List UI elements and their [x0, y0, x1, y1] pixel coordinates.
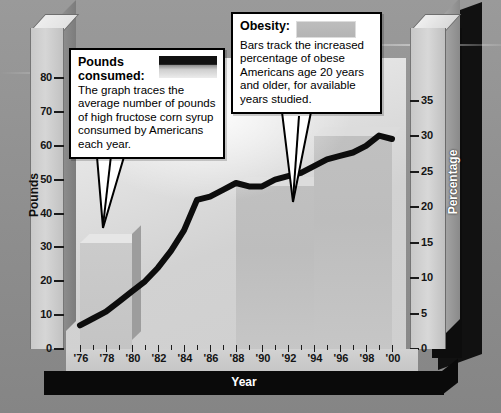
left-tick-label: 60: [28, 139, 52, 151]
callout-title: Obesity:: [240, 19, 290, 33]
pounds-consumed-callout: Pounds consumed: The graph traces the av…: [69, 48, 225, 159]
x-tick-mark: [353, 345, 354, 350]
x-axis-title-bar: Year: [44, 371, 444, 395]
x-tick-mark: [327, 345, 328, 350]
chart-canvas: 01020304050607080 Pounds 05101520253035 …: [0, 0, 501, 413]
x-tick-mark: [275, 345, 276, 350]
right-tick-label: 10: [421, 271, 443, 283]
obesity-callout-tail: [255, 110, 345, 210]
left-tick-label: 20: [28, 274, 52, 286]
right-tick-label: 30: [421, 129, 443, 141]
left-tick-mark: [54, 111, 64, 113]
bar-legend-swatch: [296, 21, 356, 38]
x-tick-mark: [288, 345, 289, 352]
left-tick-label: 80: [28, 71, 52, 83]
left-tick-mark: [54, 280, 64, 282]
obesity-callout: Obesity: Bars track the increased percen…: [231, 12, 382, 114]
x-tick-mark: [119, 345, 120, 350]
x-tick-label: '94: [303, 352, 327, 364]
x-tick-label: '86: [199, 352, 223, 364]
left-tick-mark: [54, 213, 64, 215]
callout-header: Pounds consumed:: [71, 50, 223, 83]
x-tick-mark: [197, 345, 198, 350]
x-tick-mark: [80, 345, 81, 352]
x-tick-mark: [158, 345, 159, 352]
x-tick-mark: [171, 345, 172, 350]
right-tick-mark: [410, 206, 419, 208]
x-tick-mark: [249, 345, 250, 350]
x-tick-mark: [106, 345, 107, 352]
right-tick-mark: [410, 242, 419, 244]
x-tick-mark: [132, 345, 133, 352]
x-axis-title: Year: [44, 375, 444, 389]
right-tick-mark: [410, 313, 419, 315]
x-tick-mark: [236, 345, 237, 352]
x-tick-mark: [184, 345, 185, 352]
x-tick-mark: [145, 345, 146, 350]
right-tick-label: 20: [421, 200, 443, 212]
left-tick-label: 30: [28, 240, 52, 252]
right-tick-mark: [410, 171, 419, 173]
x-tick-label: '84: [173, 352, 197, 364]
x-tick-mark: [301, 345, 302, 350]
left-tick-mark: [54, 246, 64, 248]
callout-body: Bars track the increased percentage of o…: [233, 38, 380, 112]
x-tick-mark: [93, 345, 94, 350]
left-tick-label: 10: [28, 308, 52, 320]
x-tick-mark: [379, 345, 380, 350]
x-tick-mark: [262, 345, 263, 352]
x-tick-label: '82: [147, 352, 171, 364]
x-tick-label: '92: [277, 352, 301, 364]
x-tick-label: '98: [355, 352, 379, 364]
left-tick-mark: [54, 145, 64, 147]
right-tick-label: 0: [421, 342, 443, 354]
x-tick-label: '88: [225, 352, 249, 364]
right-tick-label: 35: [421, 94, 443, 106]
left-tick-mark: [54, 179, 64, 181]
left-tick-label: 0: [28, 342, 52, 354]
x-tick-mark: [314, 345, 315, 352]
callout-header: Obesity:: [233, 14, 380, 38]
callout-body: The graph traces the average number of p…: [71, 83, 223, 157]
left-tick-mark: [54, 348, 64, 350]
right-tick-label: 25: [421, 165, 443, 177]
right-tick-mark: [410, 135, 419, 137]
x-tick-label: '80: [121, 352, 145, 364]
x-tick-mark: [210, 345, 211, 352]
x-tick-label: '00: [381, 352, 405, 364]
left-axis-title: Pounds: [27, 155, 41, 235]
right-tick-mark: [410, 277, 419, 279]
x-tick-mark: [366, 345, 367, 352]
left-tick-mark: [54, 314, 64, 316]
right-tick-label: 15: [421, 236, 443, 248]
right-tick-label: 5: [421, 307, 443, 319]
right-axis-title: Percentage: [446, 137, 460, 227]
line-legend-swatch: [159, 56, 217, 78]
left-tick-mark: [54, 77, 64, 79]
x-tick-mark: [392, 345, 393, 352]
x-tick-mark: [223, 345, 224, 350]
x-tick-label: '96: [329, 352, 353, 364]
x-tick-mark: [340, 345, 341, 352]
left-tick-label: 70: [28, 105, 52, 117]
x-tick-label: '78: [95, 352, 119, 364]
right-pillar-front: [410, 28, 446, 349]
x-tick-label: '90: [251, 352, 275, 364]
right-tick-mark: [410, 100, 419, 102]
callout-title: Pounds consumed:: [78, 55, 153, 83]
x-tick-label: '76: [69, 352, 93, 364]
